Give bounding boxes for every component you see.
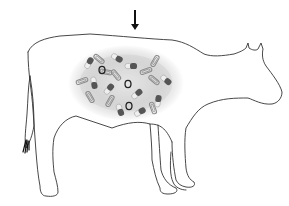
cow-belly-line <box>150 124 172 142</box>
tail-tuft <box>23 140 29 153</box>
cow-tail <box>25 76 34 148</box>
down-arrow-icon <box>131 10 139 30</box>
cow-diagram <box>0 0 289 206</box>
cow-illustration <box>0 0 289 206</box>
capsule-icon <box>125 63 137 69</box>
